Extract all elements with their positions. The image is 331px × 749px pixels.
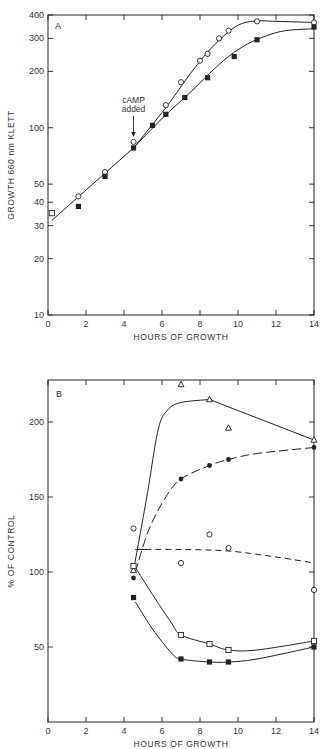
filled-square-marker [76, 204, 81, 209]
x-tick-label: 2 [83, 319, 88, 329]
filled-circle-marker [131, 576, 136, 581]
open-square-marker [207, 641, 212, 646]
x-tick-label: 6 [159, 319, 164, 329]
x-tick-label: 14 [309, 726, 319, 736]
y-axis-title: GROWTH 660 nm KLETT [6, 110, 16, 220]
x-tick-label: 4 [121, 726, 126, 736]
plot-frame [48, 380, 314, 722]
filled-circle-marker [226, 457, 231, 462]
open-circle-marker [163, 103, 168, 108]
plot-frame [48, 15, 314, 315]
filled-square-marker [182, 95, 187, 100]
fit-curve-filled-circles [135, 448, 314, 573]
filled-square-marker [254, 37, 259, 42]
figure: 024681012141020304050100200300400HOURS O… [0, 0, 331, 749]
fit-curve-filled-squares [134, 29, 315, 148]
y-tick-label: 150 [29, 492, 44, 502]
filled-square-marker [131, 595, 136, 600]
filled-square-marker [102, 174, 107, 179]
open-square-marker [311, 638, 316, 643]
open-triangle-marker [178, 381, 184, 386]
filled-square-marker [207, 659, 212, 664]
x-tick-label: 8 [197, 319, 202, 329]
panel-a: 024681012141020304050100200300400HOURS O… [6, 10, 319, 342]
open-square-marker [49, 211, 54, 216]
panel-label: B [56, 389, 62, 399]
filled-square-marker [311, 24, 316, 29]
x-tick-label: 10 [233, 319, 243, 329]
fit-curve-open-squares [135, 568, 314, 651]
x-axis-title: HOURS OF GROWTH [134, 332, 229, 342]
filled-square-marker [150, 123, 155, 128]
open-circle-marker [205, 51, 210, 56]
open-circle-marker [226, 28, 231, 33]
x-tick-label: 4 [121, 319, 126, 329]
panel-label: A [55, 21, 61, 31]
x-tick-label: 10 [233, 726, 243, 736]
open-circle-marker [131, 139, 136, 144]
fit-curve-open-circles [135, 549, 314, 563]
open-triangle-marker [226, 425, 232, 430]
filled-square-marker [163, 112, 168, 117]
open-circle-marker [216, 36, 221, 41]
y-tick-label: 30 [34, 221, 44, 231]
filled-square-marker [232, 54, 237, 59]
filled-square-marker [178, 656, 183, 661]
open-circle-marker [311, 20, 316, 25]
open-square-marker [226, 647, 231, 652]
annotation-line2: added [122, 104, 146, 114]
open-circle-marker [197, 58, 202, 63]
y-tick-label: 200 [29, 66, 44, 76]
open-circle-marker [131, 526, 136, 531]
open-circle-marker [76, 194, 81, 199]
y-tick-label: 100 [29, 123, 44, 133]
y-tick-label: 400 [29, 10, 44, 20]
filled-square-marker [131, 145, 136, 150]
y-tick-label: 40 [34, 197, 44, 207]
filled-circle-marker [207, 463, 212, 468]
filled-circle-marker [312, 445, 317, 450]
x-tick-label: 8 [197, 726, 202, 736]
filled-square-marker [226, 659, 231, 664]
open-triangle-marker [207, 396, 213, 401]
x-tick-label: 2 [83, 726, 88, 736]
panel-b: 0246810121450100150200HOURS OF GROWTH% O… [6, 380, 319, 749]
x-tick-label: 14 [309, 319, 319, 329]
x-tick-label: 6 [159, 726, 164, 736]
open-circle-marker [207, 532, 212, 537]
y-tick-label: 50 [34, 642, 44, 652]
open-circle-marker [226, 545, 231, 550]
x-tick-label: 12 [271, 726, 281, 736]
x-tick-label: 0 [45, 319, 50, 329]
x-tick-label: 12 [271, 319, 281, 329]
open-circle-marker [178, 80, 183, 85]
open-square-marker [131, 563, 136, 568]
open-circle-marker [178, 560, 183, 565]
fit-curve-triangles [134, 400, 315, 571]
y-tick-label: 50 [34, 179, 44, 189]
fit-curve-filled-squares [135, 602, 314, 662]
fit-curve-shared [52, 148, 134, 220]
filled-circle-marker [179, 477, 184, 482]
y-tick-label: 200 [29, 417, 44, 427]
x-axis-title: HOURS OF GROWTH [134, 739, 229, 749]
y-tick-label: 300 [29, 33, 44, 43]
fit-curve-open-circles [134, 21, 315, 148]
x-tick-label: 0 [45, 726, 50, 736]
y-tick-label: 100 [29, 567, 44, 577]
open-square-marker [178, 632, 183, 637]
filled-square-marker [311, 644, 316, 649]
annotation-arrow-head [131, 132, 136, 137]
y-axis-title: % OF CONTROL [6, 515, 16, 588]
open-circle-marker [254, 19, 259, 24]
open-circle-marker [311, 587, 316, 592]
y-tick-label: 20 [34, 254, 44, 264]
y-tick-label: 10 [34, 310, 44, 320]
filled-square-marker [205, 75, 210, 80]
